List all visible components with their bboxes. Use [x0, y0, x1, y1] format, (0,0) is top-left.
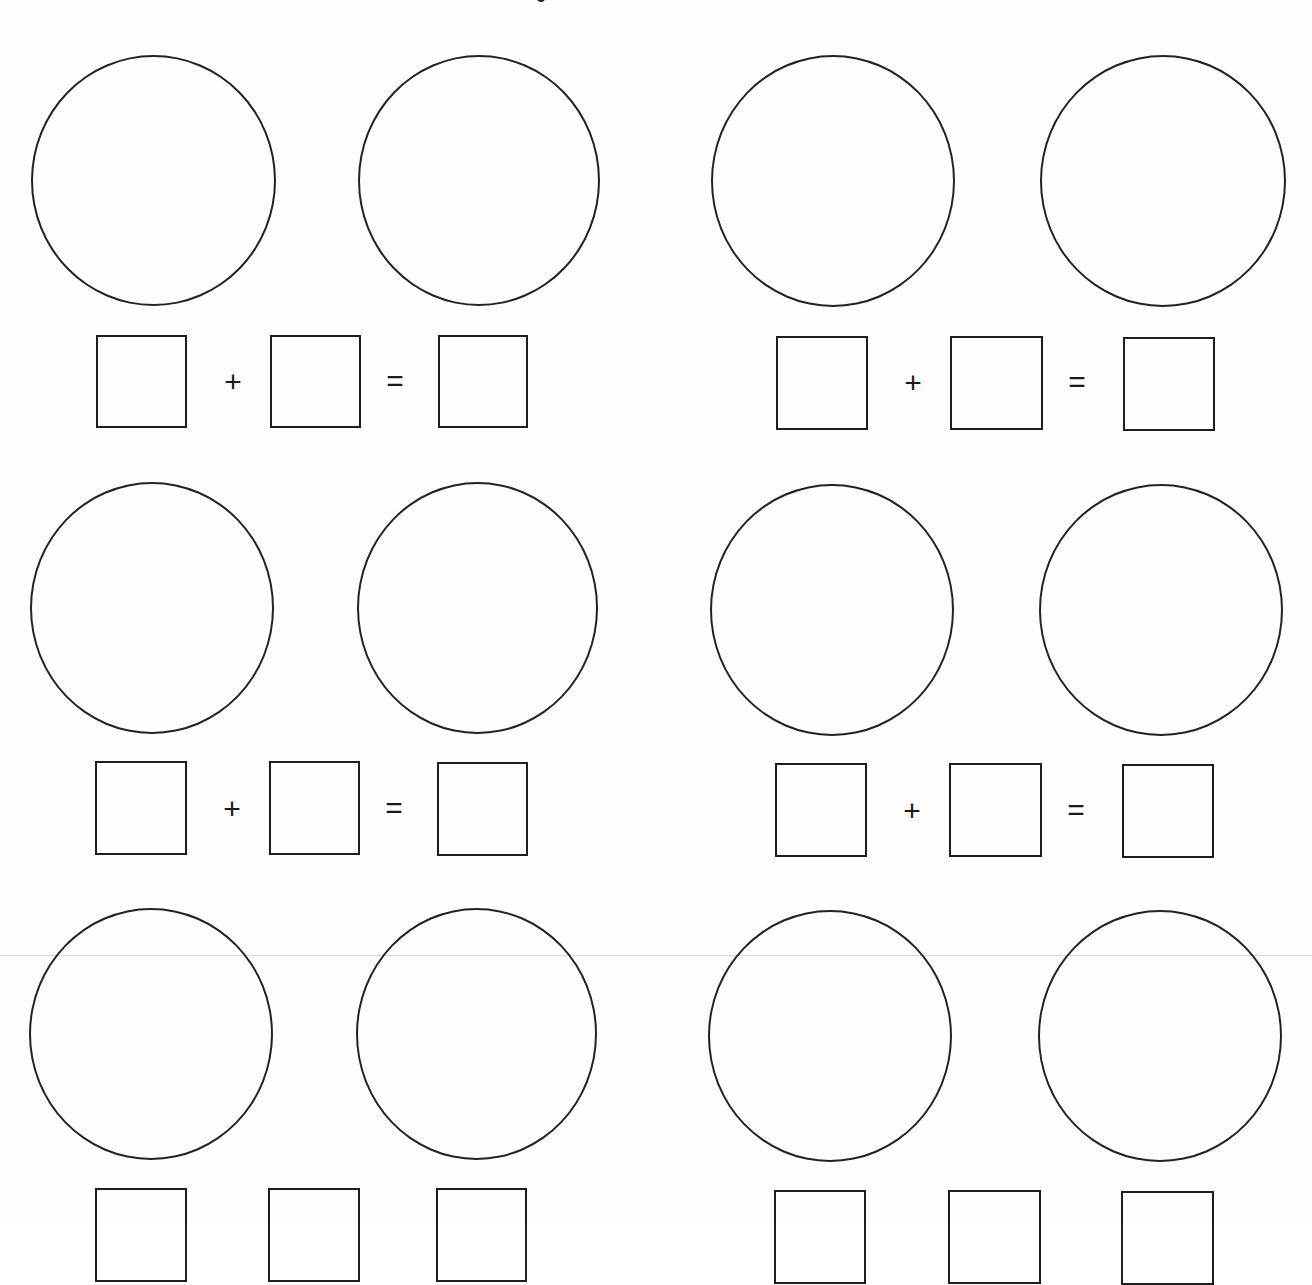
counting-circle-left[interactable]: [708, 910, 952, 1162]
addend-box-2[interactable]: [268, 1188, 360, 1282]
addend-box-2[interactable]: [948, 1190, 1041, 1284]
counting-circle-left[interactable]: [29, 908, 273, 1160]
counting-circle-right[interactable]: [357, 482, 598, 734]
sum-box[interactable]: [438, 335, 528, 428]
sum-box[interactable]: [1122, 764, 1214, 858]
sum-box[interactable]: [437, 762, 528, 856]
counting-circle-left[interactable]: [710, 484, 954, 736]
sum-box[interactable]: [1123, 337, 1215, 431]
addend-box-2[interactable]: [269, 761, 360, 855]
counting-circle-right[interactable]: [356, 908, 597, 1160]
counting-circle-right[interactable]: [1039, 484, 1283, 736]
addend-box-1[interactable]: [96, 335, 187, 428]
addend-box-1[interactable]: [95, 1188, 187, 1282]
counting-circle-right[interactable]: [1040, 55, 1286, 307]
plus-sign: +: [898, 368, 928, 398]
equals-sign: =: [379, 793, 409, 823]
counting-circle-left[interactable]: [31, 55, 276, 306]
equals-sign: =: [380, 366, 410, 396]
addend-box-1[interactable]: [774, 1190, 866, 1284]
counting-circle-right[interactable]: [358, 55, 600, 306]
addend-box-1[interactable]: [776, 336, 868, 430]
addend-box-1[interactable]: [95, 761, 187, 855]
equals-sign: =: [1061, 795, 1091, 825]
addend-box-2[interactable]: [270, 335, 361, 428]
plus-sign: +: [897, 796, 927, 826]
sum-box[interactable]: [1121, 1191, 1214, 1285]
addend-box-1[interactable]: [775, 763, 867, 857]
addend-box-2[interactable]: [949, 763, 1042, 857]
plus-sign: +: [218, 367, 248, 397]
plus-sign: +: [217, 794, 247, 824]
sum-box[interactable]: [436, 1188, 527, 1282]
counting-circle-right[interactable]: [1038, 910, 1282, 1162]
cropped-glyph-fragment: [537, 0, 545, 2]
equals-sign: =: [1062, 367, 1092, 397]
addend-box-2[interactable]: [950, 336, 1043, 430]
counting-circle-left[interactable]: [30, 482, 274, 734]
counting-circle-left[interactable]: [711, 55, 955, 307]
